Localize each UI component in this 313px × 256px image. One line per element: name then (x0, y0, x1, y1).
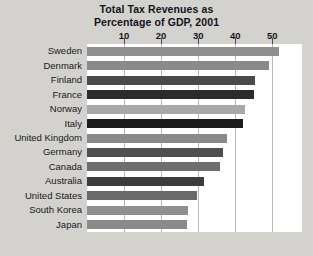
category-label-sweden: Sweden (48, 46, 82, 56)
bar-italy (87, 119, 243, 128)
bar-denmark (87, 61, 269, 70)
bar-canada (87, 162, 220, 171)
bar-australia (87, 177, 204, 186)
category-label-france: France (52, 90, 82, 100)
bar-united-kingdom (87, 134, 227, 143)
category-label-germany: Germany (43, 147, 82, 157)
category-label-united-states: United States (25, 191, 82, 201)
bar-sweden (87, 47, 279, 56)
category-label-denmark: Denmark (43, 61, 82, 71)
bar-south-korea (87, 206, 188, 215)
chart-title-line-2: Percentage of GDP, 2001 (0, 16, 313, 29)
category-label-united-kingdom: United Kingdom (14, 133, 82, 143)
bar-germany (87, 148, 223, 157)
category-label-japan: Japan (56, 220, 82, 230)
category-label-finland: Finland (51, 75, 82, 85)
bar-norway (87, 105, 245, 114)
category-label-south-korea: South Korea (29, 205, 82, 215)
bar-france (87, 90, 254, 99)
y-axis-category-labels: SwedenDenmarkFinlandFranceNorwayItalyUni… (0, 44, 85, 232)
bar-finland (87, 76, 255, 85)
bar-japan (87, 220, 187, 229)
chart-title-line-1: Total Tax Revenues as (0, 3, 313, 16)
category-label-canada: Canada (49, 162, 82, 172)
category-label-italy: Italy (65, 119, 82, 129)
bar-united-states (87, 191, 197, 200)
tax-revenue-bar-chart: Total Tax Revenues as Percentage of GDP,… (0, 0, 313, 256)
category-label-norway: Norway (50, 104, 82, 114)
x-axis-tick-labels: 1020304050 (0, 30, 313, 43)
category-label-australia: Australia (45, 176, 82, 186)
bar-series (87, 44, 302, 232)
plot-area (87, 44, 302, 232)
chart-title: Total Tax Revenues as Percentage of GDP,… (0, 3, 313, 29)
